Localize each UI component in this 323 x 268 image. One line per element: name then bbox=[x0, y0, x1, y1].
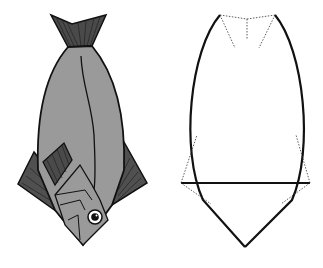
fish-drawing bbox=[0, 0, 160, 268]
crease-diagram-drawing bbox=[160, 0, 323, 268]
left-arc bbox=[190, 15, 245, 247]
dotted-tail-lines bbox=[220, 15, 275, 48]
origami-fish-illustration bbox=[0, 0, 160, 268]
right-arc bbox=[245, 15, 304, 247]
fish-crease-diagram bbox=[160, 0, 323, 268]
tail-fin bbox=[51, 15, 106, 47]
